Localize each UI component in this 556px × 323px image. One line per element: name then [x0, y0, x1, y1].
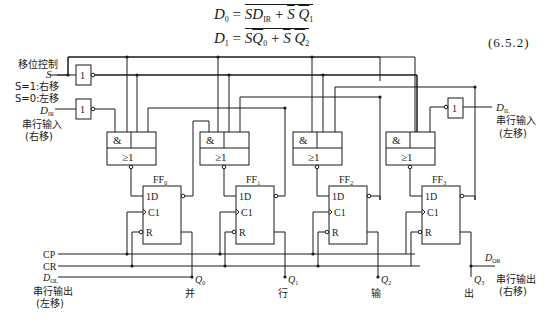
or-label-1: ≥1 [215, 151, 227, 163]
label-serial-in-left-paren: (左移) [499, 127, 527, 139]
q1-label: Q1 [288, 274, 298, 286]
and-label-3: & [392, 134, 401, 146]
svg-text:R: R [146, 227, 153, 238]
or-label-2: ≥1 [308, 151, 320, 163]
ff1-title: FF1 [246, 174, 260, 186]
label-s-right: S=1:右移 [15, 80, 59, 92]
and-label-1: & [206, 134, 215, 146]
label-cp: CP [43, 249, 56, 260]
or-label-3: ≥1 [401, 151, 413, 163]
label-serial-out-right: 串行输出 [496, 273, 536, 285]
label-s-left: S=0:左移 [15, 92, 59, 104]
label-dir: DIR [39, 104, 54, 117]
q0-char: 并 [185, 287, 195, 299]
svg-text:C1: C1 [334, 207, 346, 218]
q2-char: 输 [371, 287, 381, 299]
svg-text:C1: C1 [427, 207, 439, 218]
q3-char: 出 [464, 287, 474, 299]
q2-label: Q2 [381, 274, 391, 286]
svg-text:1D: 1D [332, 191, 344, 202]
label-shift-control: 移位控制 [18, 58, 58, 70]
svg-text:1D: 1D [239, 191, 251, 202]
label-s: S [46, 68, 52, 80]
svg-text:C1: C1 [241, 207, 253, 218]
svg-text:C1: C1 [148, 207, 160, 218]
label-serial-in-right-paren: (右移) [25, 130, 53, 142]
svg-text:1D: 1D [146, 191, 158, 202]
label-dor: DOR [484, 252, 501, 264]
svg-text:R: R [425, 227, 432, 238]
label-dil: DIL [495, 101, 510, 114]
or-label-0: ≥1 [122, 151, 134, 163]
and-label-2: & [299, 134, 308, 146]
label-serial-in-left: 串行输入 [496, 114, 536, 126]
label-serial-out-left-paren: (左移) [36, 297, 64, 309]
svg-text:R: R [239, 227, 246, 238]
svg-text:R: R [332, 227, 339, 238]
ff2-title: FF2 [339, 174, 353, 186]
not-gate-dir-label: 1 [80, 104, 85, 115]
not-gate-dil-label: 1 [452, 103, 457, 114]
label-serial-out-right-paren: (右移) [499, 285, 527, 297]
q1-char: 行 [278, 287, 288, 299]
label-serial-out-left: 串行输出 [33, 285, 73, 297]
not-gate-s-label: 1 [80, 70, 85, 81]
ff0-title: FF0 [153, 174, 167, 186]
ff-pin-labels: 1DC1R 1DC1R 1DC1R 1DC1R [146, 191, 439, 238]
shift-register-diagram: 移位控制 S S=1:右移 S=0:左移 DIR 串行输入 (右移) [0, 0, 556, 323]
q0-label: Q0 [195, 274, 205, 286]
label-serial-in-right: 串行输入 [22, 118, 62, 130]
svg-text:1D: 1D [425, 191, 437, 202]
label-dol: DOL [42, 272, 59, 284]
q3-label: Q3 [474, 274, 484, 286]
label-cr: CR [43, 261, 57, 272]
ff3-title: FF3 [432, 174, 446, 186]
and-label-0: & [113, 134, 122, 146]
